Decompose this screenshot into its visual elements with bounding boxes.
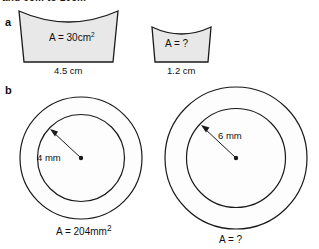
small-trapezium-area-prefix: A = <box>165 38 183 49</box>
large-annulus-radius-label: 6 mm <box>218 130 242 141</box>
figure-vector-layer <box>0 0 319 249</box>
large-trapezium-area-exponent: 2 <box>91 31 95 38</box>
small-annulus-area-exponent: 2 <box>107 223 112 233</box>
small-trapezium-area-value: ? <box>183 38 189 49</box>
small-annulus-area-value: 204 <box>74 226 91 237</box>
large-annulus-area-value: ? <box>237 234 243 245</box>
large-annulus-centre-dot <box>234 156 238 160</box>
large-trapezium-area-prefix: A = <box>49 32 67 43</box>
small-annulus-radius-label: 4 mm <box>37 152 61 163</box>
small-trapezium-area-label: A = ? <box>165 38 188 49</box>
large-trapezium-base-dimension: 4.5 cm <box>54 65 83 76</box>
small-annulus-area-label: A = 204mm2 <box>56 223 112 237</box>
small-trapezium-base-dimension: 1.2 cm <box>167 65 196 76</box>
small-annulus-centre-dot <box>79 156 83 160</box>
small-annulus-area-prefix: A = <box>56 226 74 237</box>
large-trapezium-area-label: A = 30cm2 <box>49 32 95 43</box>
large-annulus-area-label: A = ? <box>219 234 242 245</box>
geometry-figure: and 6cm to 10cm 3 a b A = 30cm2 4.5 cm A… <box>0 0 319 249</box>
large-annulus-area-prefix: A = <box>219 234 237 245</box>
large-trapezium-area-unit: cm <box>78 32 91 43</box>
small-annulus-area-unit: mm <box>90 226 107 237</box>
large-trapezium-area-value: 30 <box>67 32 78 43</box>
